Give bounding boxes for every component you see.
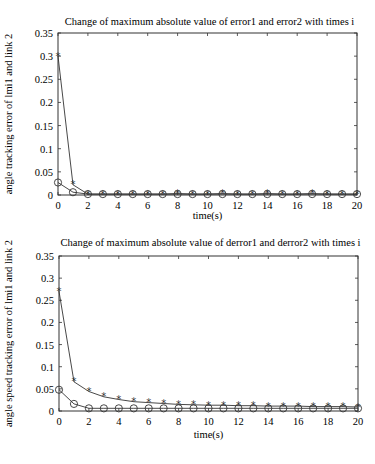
x-tick-label: 8: [175, 200, 180, 211]
x-axis-label: time(s): [193, 210, 223, 222]
y-tick-label: 0.1: [40, 144, 53, 155]
y-tick-label: 0.25: [36, 295, 54, 306]
x-tick-label: 20: [352, 200, 363, 211]
chart-title: Change of maximum absolute value of erro…: [65, 16, 355, 27]
star-marker: *: [266, 401, 271, 412]
y-tick-label: 0.3: [40, 51, 53, 62]
x-tick-label: 18: [323, 416, 334, 427]
y-tick-label: 0: [49, 406, 54, 417]
x-tick-label: 20: [353, 416, 364, 427]
x-tick-label: 16: [292, 200, 303, 211]
series-star: *********************: [57, 286, 361, 413]
x-tick-label: 4: [116, 416, 122, 427]
star-marker: *: [326, 401, 331, 412]
x-tick-label: 6: [145, 200, 150, 211]
plot-frame: [59, 256, 358, 411]
star-marker: *: [161, 398, 166, 409]
x-tick-label: 16: [293, 416, 304, 427]
star-marker: *: [311, 401, 316, 412]
star-marker: *: [296, 401, 301, 412]
x-tick-label: 0: [55, 200, 60, 211]
y-tick-label: 0.05: [36, 384, 54, 395]
x-tick-label: 6: [146, 416, 151, 427]
star-marker: *: [56, 51, 61, 62]
y-tick-label: 0.2: [40, 97, 53, 108]
star-marker: *: [281, 401, 286, 412]
star-marker: *: [116, 394, 121, 405]
star-marker: *: [71, 376, 76, 387]
y-axis-label: angle speed tracking error of lmi1 and l…: [3, 240, 14, 427]
series-star: *********************: [56, 51, 360, 200]
y-axis-label: angle tracking error of lmi1 and link 2: [3, 34, 14, 195]
y-tick-label: 0.15: [36, 340, 54, 351]
x-axis-label: time(s): [194, 429, 224, 441]
plot-frame: [58, 33, 357, 195]
y-tick-label: 0.35: [35, 28, 53, 39]
y-tick-label: 0.3: [41, 273, 54, 284]
x-tick-label: 12: [232, 200, 243, 211]
chart-1: Change of maximum absolute value of erro…: [3, 16, 362, 222]
chart-2: Change of maximum absolute value of derr…: [3, 237, 363, 441]
chart-title: Change of maximum absolute value of derr…: [60, 237, 360, 248]
x-tick-label: 18: [322, 200, 333, 211]
x-tick-label: 2: [85, 200, 90, 211]
y-tick-label: 0.05: [35, 167, 53, 178]
x-tick-label: 10: [203, 416, 214, 427]
x-tick-label: 14: [262, 200, 273, 211]
star-marker: *: [86, 386, 91, 397]
star-marker: *: [57, 286, 62, 297]
x-tick-label: 2: [86, 416, 91, 427]
star-marker: *: [146, 397, 151, 408]
x-tick-label: 8: [176, 416, 181, 427]
star-marker: *: [341, 401, 346, 412]
y-tick-label: 0.35: [36, 251, 54, 262]
x-tick-label: 0: [56, 416, 61, 427]
y-tick-label: 0.15: [35, 121, 53, 132]
star-marker: *: [101, 391, 106, 402]
y-tick-label: 0.1: [41, 362, 54, 373]
x-tick-label: 4: [115, 200, 121, 211]
y-tick-label: 0: [48, 190, 53, 201]
y-tick-label: 0.25: [35, 74, 53, 85]
x-tick-label: 12: [233, 416, 244, 427]
figure-canvas: Change of maximum absolute value of erro…: [0, 0, 375, 464]
x-tick-label: 14: [263, 416, 274, 427]
star-marker: *: [356, 402, 361, 413]
y-tick-label: 0.2: [41, 317, 54, 328]
